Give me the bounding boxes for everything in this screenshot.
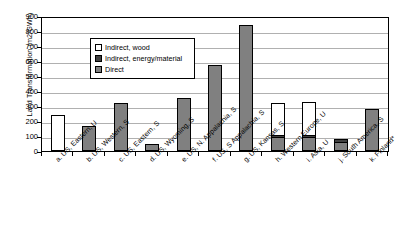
- x-tick-mark: [356, 152, 357, 156]
- y-tick-label: 100: [8, 133, 38, 141]
- y-tick-label: 0: [8, 148, 38, 156]
- x-tick-mark: [324, 152, 325, 156]
- y-tick-label: 500: [8, 73, 38, 81]
- x-tick-mark: [293, 152, 294, 156]
- x-tick-mark: [135, 152, 136, 156]
- x-tick-mark: [387, 152, 388, 156]
- x-tick-mark: [104, 152, 105, 156]
- y-tick-label: 700: [8, 43, 38, 51]
- bar-segment-indirect-wood[interactable]: [51, 115, 65, 151]
- legend-label: Indirect, energy/material: [105, 55, 182, 63]
- bar-group[interactable]: [51, 115, 65, 151]
- x-tick-mark: [41, 152, 42, 156]
- y-tick-label: 900: [8, 13, 38, 21]
- dark-gray-swatch-icon: [95, 55, 102, 62]
- gridline: [42, 33, 388, 34]
- bar-group[interactable]: [208, 65, 222, 151]
- x-tick-mark: [167, 152, 168, 156]
- x-tick-mark: [230, 152, 231, 156]
- x-tick-mark: [72, 152, 73, 156]
- gray-swatch-icon: [95, 66, 102, 73]
- legend-item-indirect-wood: Indirect, wood: [95, 42, 189, 53]
- white-swatch-icon: [95, 44, 102, 51]
- y-tick-label: 600: [8, 58, 38, 66]
- bar-segment-direct[interactable]: [208, 65, 222, 151]
- legend-item-indirect-energy-material: Indirect, energy/material: [95, 53, 189, 64]
- legend-label: Indirect, wood: [105, 44, 150, 52]
- y-tick-label: 400: [8, 88, 38, 96]
- y-tick-label: 800: [8, 28, 38, 36]
- land-transformation-bar-chart: Land Transformation (m2/GWh) 90080070060…: [0, 0, 396, 231]
- legend-item-direct: Direct: [95, 64, 189, 75]
- chart-legend: Indirect, wood Indirect, energy/material…: [90, 38, 195, 79]
- x-tick-mark: [198, 152, 199, 156]
- x-tick-mark: [261, 152, 262, 156]
- y-tick-label: 300: [8, 103, 38, 111]
- y-tick-label: 200: [8, 118, 38, 126]
- legend-label: Direct: [105, 66, 124, 74]
